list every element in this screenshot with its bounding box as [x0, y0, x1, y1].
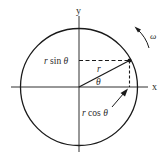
r-sin-theta-label: r sin θ — [44, 56, 69, 66]
circle-projection-diagram: x y r sin θ r θ r cos θ ω — [0, 0, 168, 160]
angle-label: θ — [96, 77, 101, 87]
r-sin-func: sin — [48, 56, 64, 66]
r-cos-func: cos — [86, 108, 103, 118]
radius-label: r — [97, 64, 101, 74]
r-cos-theta-label: r cos θ — [82, 108, 108, 118]
x-axis-label: x — [152, 81, 157, 92]
r-sin-theta: θ — [64, 56, 69, 66]
radius-line — [79, 61, 130, 88]
cos-pointer-arrow-icon — [112, 89, 128, 108]
r-cos-theta: θ — [103, 108, 108, 118]
omega-label: ω — [150, 31, 156, 41]
rotation-arrow-icon — [135, 27, 150, 49]
y-axis-label: y — [76, 5, 81, 16]
